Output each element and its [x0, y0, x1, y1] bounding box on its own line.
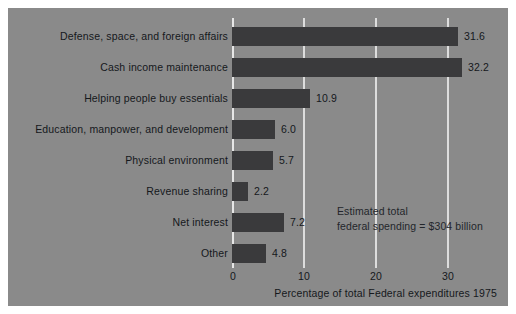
bar-rect — [232, 151, 273, 170]
bar-value: 7.2 — [290, 213, 305, 232]
bar-value: 6.0 — [281, 120, 296, 139]
bar-label: Other — [201, 244, 228, 263]
bar-label: Cash income maintenance — [100, 58, 228, 77]
bar-rect — [232, 89, 310, 108]
chart-plot-area: Defense, space, and foreign affairs 31.6… — [8, 8, 508, 306]
annotation-line-1: Estimated total — [337, 204, 483, 219]
bar-value: 32.2 — [468, 58, 489, 77]
bar-label: Education, manpower, and development — [35, 120, 228, 139]
bar-label: Physical environment — [125, 151, 228, 170]
bar-value: 5.7 — [279, 151, 294, 170]
bar-row: Cash income maintenance 32.2 — [8, 58, 508, 77]
bar-rect — [232, 213, 284, 232]
bar-rect — [232, 182, 248, 201]
bar-label: Helping people buy essentials — [84, 89, 228, 108]
bar-value: 31.6 — [464, 27, 485, 46]
chart-annotation: Estimated total federal spending = $304 … — [337, 204, 483, 234]
bar-row: Other 4.8 — [8, 244, 508, 263]
bar-row: Defense, space, and foreign affairs 31.6 — [8, 27, 508, 46]
bar-label: Revenue sharing — [146, 182, 228, 201]
xtick-label-0: 0 — [213, 270, 253, 282]
xtick-label-10: 10 — [284, 270, 324, 282]
bar-label: Defense, space, and foreign affairs — [60, 27, 228, 46]
bar-row: Revenue sharing 2.2 — [8, 182, 508, 201]
chart-figure: Defense, space, and foreign affairs 31.6… — [0, 0, 516, 314]
bar-value: 10.9 — [316, 89, 337, 108]
annotation-line-2: federal spending = $304 billion — [337, 219, 483, 234]
xtick-label-30: 30 — [428, 270, 468, 282]
bar-value: 2.2 — [254, 182, 269, 201]
xtick-label-20: 20 — [356, 270, 396, 282]
x-axis-caption: Percentage of total Federal expenditures… — [8, 287, 508, 299]
bar-rect — [232, 58, 462, 77]
bar-label: Net interest — [173, 213, 229, 232]
bar-rect — [232, 120, 275, 139]
bar-value: 4.8 — [272, 244, 287, 263]
bar-row: Helping people buy essentials 10.9 — [8, 89, 508, 108]
bar-rect — [232, 244, 266, 263]
bar-rect — [232, 27, 458, 46]
bar-row: Education, manpower, and development 6.0 — [8, 120, 508, 139]
bar-row: Physical environment 5.7 — [8, 151, 508, 170]
